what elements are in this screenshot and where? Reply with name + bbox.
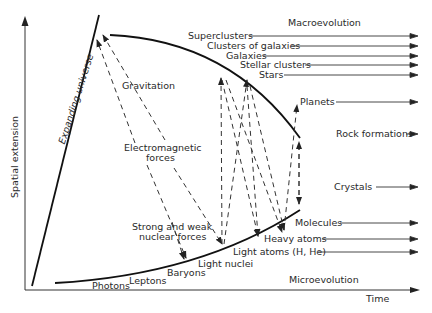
label-photons: Photons (92, 281, 130, 291)
microevolution-title: Microevolution (289, 275, 359, 285)
label-nuclear-forces: nuclear forces (139, 232, 206, 242)
label-light-atoms: Light atoms (H, He) (233, 247, 326, 257)
label-planets: Planets (300, 97, 335, 107)
label-crystals: Crystals (334, 182, 372, 192)
x-axis (25, 287, 420, 293)
label-leptons: Leptons (129, 276, 167, 286)
label-molecules: Molecules (295, 218, 342, 228)
label-em-forces: forces (146, 153, 175, 163)
x-axis-label: Time (366, 294, 389, 304)
macroevolution-title: Macroevolution (288, 18, 361, 28)
y-axis-label: Spatial extension (9, 116, 20, 198)
label-rock-formations: Rock formations (336, 129, 413, 139)
label-light-nuclei: Light nuclei (198, 259, 253, 269)
label-gravitation: Gravitation (122, 81, 175, 91)
label-stars: Stars (259, 70, 283, 80)
y-axis (22, 16, 29, 290)
label-heavy-atoms: Heavy atoms (264, 234, 327, 244)
label-baryons: Baryons (167, 268, 206, 278)
